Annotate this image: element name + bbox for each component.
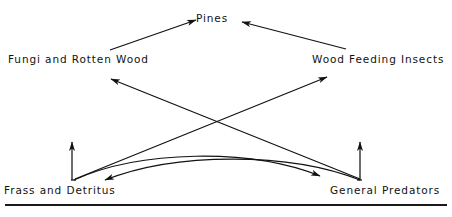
node-label-general-predators: General Predators <box>330 185 440 196</box>
node-label-pines: Pines <box>196 13 228 24</box>
food-web-figure: Pines Fungi and Rotten Wood Wood Feeding… <box>0 0 452 217</box>
node-label-wood-feeding-insects: Wood Feeding Insects <box>312 54 444 65</box>
edge-fungi-to-pines <box>110 20 196 50</box>
edge-predators-to-frass <box>105 159 360 180</box>
edge-insects-to-pines <box>242 22 346 49</box>
caption-text-clipped <box>0 208 452 217</box>
edge-predators-to-fungi <box>111 79 360 179</box>
node-label-fungi-and-rotten-wood: Fungi and Rotten Wood <box>8 54 149 65</box>
caption-divider-rule <box>5 204 447 206</box>
edge-frass-to-insects <box>75 77 327 179</box>
node-label-frass-and-detritus: Frass and Detritus <box>4 185 116 196</box>
